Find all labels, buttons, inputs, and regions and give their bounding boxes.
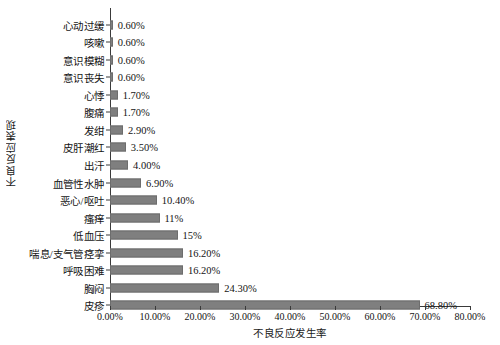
bar-value-label: 0.60% xyxy=(118,72,145,83)
bar-row: 心动过缓0.60% xyxy=(110,16,470,34)
bar xyxy=(110,108,118,117)
bar-value-label: 2.90% xyxy=(128,124,155,135)
category-label: 呼吸困难 xyxy=(63,263,104,278)
y-axis-title-text: 不良反应表现 xyxy=(4,118,19,187)
plot-area: 心动过缓0.60%咳嗽0.60%意识模糊0.60%意识丧失0.60%心悸1.70… xyxy=(110,8,470,306)
category-label: 腹痛 xyxy=(84,105,104,120)
bar-value-label: 3.50% xyxy=(131,142,158,153)
category-label: 咳嗽 xyxy=(84,35,104,50)
bar-row: 血管性水肿6.90% xyxy=(110,174,470,192)
x-axis-tick-label: 20.00% xyxy=(185,311,216,322)
bar-row: 呼吸困难16.20% xyxy=(110,261,470,279)
bar xyxy=(110,125,123,134)
bar xyxy=(110,248,183,257)
bar-value-label: 0.60% xyxy=(118,37,145,48)
bar-row: 喘息/支气管痉挛16.20% xyxy=(110,244,470,262)
x-axis-tick xyxy=(290,306,291,310)
bar-value-label: 4.00% xyxy=(133,159,160,170)
bar-value-label: 6.90% xyxy=(146,177,173,188)
x-axis-tick xyxy=(470,306,471,310)
category-label: 发绀 xyxy=(84,122,104,137)
bar xyxy=(110,90,118,99)
category-label: 喘息/支气管痉挛 xyxy=(29,245,104,260)
category-label: 皮肝潮红 xyxy=(63,140,104,155)
x-axis-tick xyxy=(335,306,336,310)
bar-chart: 不良反应表现 心动过缓0.60%咳嗽0.60%意识模糊0.60%意识丧失0.60… xyxy=(0,0,500,345)
bar xyxy=(110,38,113,47)
category-label: 心动过缓 xyxy=(63,17,104,32)
category-label: 意识模糊 xyxy=(63,52,104,67)
bar-row: 意识模糊0.60% xyxy=(110,51,470,69)
x-axis-tick xyxy=(110,306,111,310)
bar-value-label: 10.40% xyxy=(162,195,194,206)
x-axis-tick-label: 70.00% xyxy=(410,311,441,322)
category-label: 胸闷 xyxy=(84,280,104,295)
bar xyxy=(110,196,157,205)
x-axis-tick xyxy=(200,306,201,310)
bar xyxy=(110,178,141,187)
bar-row: 恶心/呕吐10.40% xyxy=(110,191,470,209)
bar xyxy=(110,301,420,310)
bar-row: 低血压15% xyxy=(110,226,470,244)
bar-value-label: 24.30% xyxy=(224,282,256,293)
x-axis-tick xyxy=(425,306,426,310)
bar-value-label: 1.70% xyxy=(123,107,150,118)
bar-row: 心悸1.70% xyxy=(110,86,470,104)
bar xyxy=(110,231,178,240)
bar-value-label: 1.70% xyxy=(123,89,150,100)
x-axis-tick-label: 30.00% xyxy=(230,311,261,322)
bar-row: 胸闷24.30% xyxy=(110,279,470,297)
category-label: 恶心/呕吐 xyxy=(60,193,104,208)
x-axis-tick xyxy=(380,306,381,310)
bar xyxy=(110,266,183,275)
bar xyxy=(110,143,126,152)
y-axis-title: 不良反应表现 xyxy=(0,0,22,305)
category-label: 心悸 xyxy=(84,87,104,102)
x-axis-tick-label: 60.00% xyxy=(365,311,396,322)
x-axis-tick xyxy=(155,306,156,310)
bar-value-label: 68.80% xyxy=(425,300,457,311)
bar xyxy=(110,283,219,292)
x-axis-tick-label: 80.00% xyxy=(455,311,486,322)
bar-value-label: 15% xyxy=(183,230,202,241)
x-axis-tick-label: 10.00% xyxy=(140,311,171,322)
x-axis-tick-label: 50.00% xyxy=(320,311,351,322)
category-label: 意识丧失 xyxy=(63,70,104,85)
bar xyxy=(110,213,160,222)
category-label: 血管性水肿 xyxy=(53,175,104,190)
bar xyxy=(110,160,128,169)
bar xyxy=(110,55,113,64)
bar-row: 意识丧失0.60% xyxy=(110,69,470,87)
bar-value-label: 0.60% xyxy=(118,54,145,65)
bar-row: 瘙痒11% xyxy=(110,209,470,227)
category-label: 出汗 xyxy=(84,157,104,172)
x-axis-tick xyxy=(245,306,246,310)
bar-row: 出汗4.00% xyxy=(110,156,470,174)
bar-row: 发绀2.90% xyxy=(110,121,470,139)
x-axis-title: 不良反应发生率 xyxy=(110,325,470,340)
bar-row: 皮肝潮红3.50% xyxy=(110,139,470,157)
bar xyxy=(110,20,113,29)
bar-value-label: 16.20% xyxy=(188,265,220,276)
x-axis-tick-label: 40.00% xyxy=(275,311,306,322)
bar-value-label: 16.20% xyxy=(188,247,220,258)
category-label: 瘙痒 xyxy=(84,210,104,225)
category-label: 低血压 xyxy=(73,228,104,243)
bar-row: 腹痛1.70% xyxy=(110,104,470,122)
bar-row: 咳嗽0.60% xyxy=(110,34,470,52)
bar-value-label: 0.60% xyxy=(118,19,145,30)
bar-value-label: 11% xyxy=(165,212,184,223)
bar xyxy=(110,73,113,82)
x-axis-tick-label: 0.00% xyxy=(97,311,123,322)
